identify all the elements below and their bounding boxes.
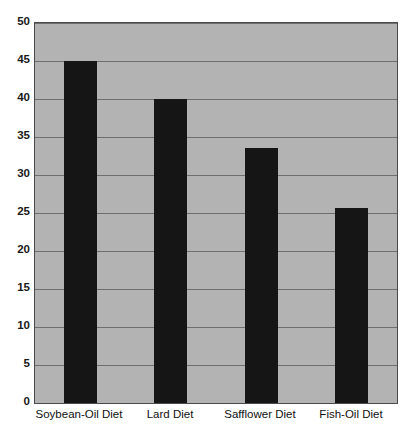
- y-axis-tick-label: 5: [2, 358, 30, 370]
- bar: [245, 148, 278, 403]
- y-axis: 05101520253035404550: [0, 22, 30, 404]
- y-axis-tick-label: 15: [2, 282, 30, 294]
- y-axis-tick-label: 50: [2, 16, 30, 28]
- y-axis-tick-label: 35: [2, 130, 30, 142]
- bar-chart: 05101520253035404550 Soybean-Oil DietLar…: [0, 0, 409, 436]
- y-axis-tick-label: 0: [2, 396, 30, 408]
- plot-area: [34, 22, 398, 404]
- y-axis-tick-label: 10: [2, 320, 30, 332]
- x-axis-category-label: Soybean-Oil Diet: [36, 408, 123, 421]
- bar: [64, 61, 97, 403]
- bar: [154, 99, 187, 403]
- y-axis-tick-label: 25: [2, 206, 30, 218]
- x-axis-category-label: Safflower Diet: [224, 408, 295, 421]
- x-axis-category-label: Fish-Oil Diet: [319, 408, 382, 421]
- x-axis-category-label: Lard Diet: [147, 408, 194, 421]
- y-axis-tick-label: 20: [2, 244, 30, 256]
- y-axis-tick-label: 45: [2, 54, 30, 66]
- y-axis-tick-label: 30: [2, 168, 30, 180]
- gridline: [35, 23, 397, 24]
- x-axis: Soybean-Oil DietLard DietSafflower DietF…: [34, 408, 398, 432]
- y-axis-tick-label: 40: [2, 92, 30, 104]
- bar: [335, 208, 368, 403]
